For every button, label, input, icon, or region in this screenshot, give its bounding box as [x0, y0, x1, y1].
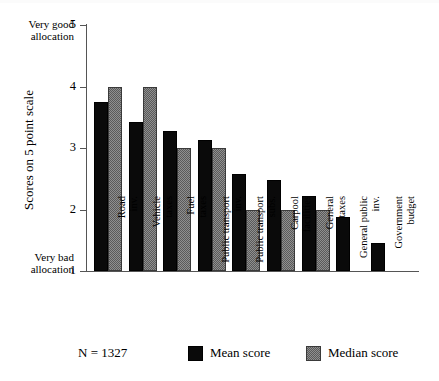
- y-tick-label-5: 5: [60, 18, 76, 31]
- x-category-line-1: Fuel: [185, 196, 196, 215]
- legend-label-mean: Mean score: [210, 345, 270, 361]
- very-bad-line-1: Very bad: [35, 251, 74, 263]
- sample-size-label: N = 1327: [78, 345, 127, 361]
- x-category-line-1: Road: [116, 196, 127, 218]
- y-tick-1: [80, 271, 86, 272]
- x-category-line-2: inv.: [128, 196, 140, 276]
- x-category-line-2: inv.: [231, 196, 243, 276]
- x-category-label-6: Generaltaxes: [324, 196, 347, 276]
- x-category-label-8: Governmentbudget: [393, 196, 416, 276]
- x-category-line-1: Public transport: [254, 196, 265, 263]
- x-category-line-2: facilities: [301, 196, 313, 276]
- legend-entry-mean: Mean score: [188, 345, 270, 361]
- x-category-line-2: inv.: [370, 196, 382, 276]
- y-tick-label-1: 1: [60, 264, 76, 277]
- x-category-line-2: taxes: [335, 196, 347, 276]
- very-good-line-2: allocation: [31, 30, 74, 42]
- legend-swatch-mean-icon: [188, 346, 203, 361]
- x-category-line-1: Vehicle: [151, 196, 162, 228]
- x-category-line-1: Carpool: [289, 196, 300, 230]
- legend-entry-median: Median score: [306, 345, 398, 361]
- x-category-label-2: Fueltaxes: [185, 196, 208, 276]
- bar-chart-figure: Very good allocation Very bad allocation…: [0, 0, 439, 381]
- x-category-line-1: General: [324, 196, 335, 229]
- x-category-label-7: General publicinv.: [358, 196, 381, 276]
- x-category-label-3: Public transportinv.: [220, 196, 243, 276]
- y-tick-label-3: 3: [60, 141, 76, 154]
- bar-mean-0: [94, 102, 108, 271]
- legend-swatch-median-icon: [306, 346, 321, 361]
- legend-label-median: Median score: [328, 345, 398, 361]
- x-category-label-5: Carpoolfacilities: [289, 196, 312, 276]
- x-category-line-2: taxes: [197, 196, 209, 276]
- x-category-line-2: budget: [404, 196, 416, 276]
- x-category-line-2: subs.: [266, 196, 278, 276]
- x-category-line-1: General public: [358, 196, 369, 258]
- x-category-label-0: Roadinv.: [116, 196, 139, 276]
- x-category-line-1: Public transport: [220, 196, 231, 263]
- x-category-line-1: Government: [393, 196, 404, 249]
- y-axis-title: Scores on 5 point scale: [21, 75, 37, 225]
- scan-artifact: [0, 0, 439, 3]
- y-tick-label-2: 2: [60, 203, 76, 216]
- x-category-label-1: Vehicletaxes: [151, 196, 174, 276]
- y-tick-label-4: 4: [60, 80, 76, 93]
- chart-legend: N = 1327 Mean score Median score: [78, 345, 418, 365]
- x-category-label-4: Public transportsubs.: [254, 196, 277, 276]
- x-category-line-2: taxes: [162, 196, 174, 276]
